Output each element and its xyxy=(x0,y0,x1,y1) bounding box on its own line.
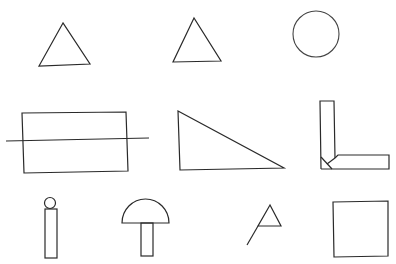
flag-triangle xyxy=(258,205,281,226)
right-triangle-shape xyxy=(178,111,284,170)
square-outline xyxy=(333,201,388,257)
mushroom-shape xyxy=(122,199,169,256)
rectangle-outline xyxy=(22,112,128,173)
right-triangle-outline xyxy=(178,111,284,170)
i-bar xyxy=(45,209,57,258)
triangle-1-shape xyxy=(39,23,90,66)
shapes-figure xyxy=(0,0,396,264)
flag-shape xyxy=(247,205,281,245)
square-shape xyxy=(333,201,388,257)
mushroom-stem xyxy=(141,223,153,256)
triangle-1-outline xyxy=(39,23,90,66)
circle-shape xyxy=(293,11,339,57)
i-dot-circle xyxy=(45,198,56,209)
l-shape xyxy=(320,101,389,169)
triangle-2-shape xyxy=(173,18,221,62)
rectangle-with-line-shape xyxy=(6,112,149,173)
i-shape xyxy=(45,198,58,259)
triangle-2-outline xyxy=(173,18,221,62)
flag-pole xyxy=(247,226,258,245)
circle-outline xyxy=(293,11,339,57)
mushroom-cap xyxy=(122,199,169,223)
l-horizontal-bar xyxy=(321,155,389,169)
l-corner-diagonal-1 xyxy=(321,157,332,169)
l-corner-diagonal-2 xyxy=(327,158,335,164)
